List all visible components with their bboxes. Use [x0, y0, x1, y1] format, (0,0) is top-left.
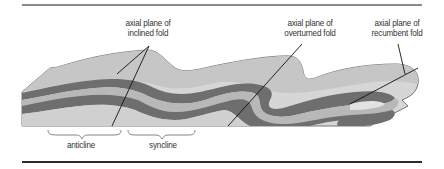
anticline-brace	[48, 130, 121, 139]
label-anticline: anticline	[60, 140, 103, 150]
label-overturned-line2: overturned fold	[276, 28, 344, 38]
bottom-rule	[22, 161, 422, 163]
label-overturned-fold: axial plane of overturned fold	[276, 18, 344, 38]
label-inclined-line2: inclined fold	[118, 28, 178, 38]
label-recumbent-fold: axial plane of recumbent fold	[367, 18, 427, 38]
fold-diagram: axial plane of inclined fold axial plane…	[0, 0, 444, 169]
syncline-brace	[128, 130, 195, 139]
label-syncline: syncline	[142, 140, 185, 150]
label-inclined-fold: axial plane of inclined fold	[118, 18, 178, 38]
label-recumbent-line2: recumbent fold	[367, 28, 427, 38]
